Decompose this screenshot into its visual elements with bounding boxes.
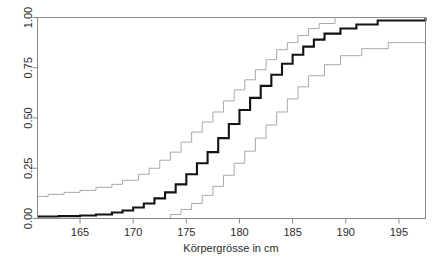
y-tick-label: 0.75 [22, 57, 34, 78]
y-tick-label: 0.25 [22, 158, 34, 179]
x-tick-label: 165 [71, 226, 89, 238]
confidence-band-line [38, 43, 426, 219]
x-tick-label: 190 [337, 226, 355, 238]
x-tick-label: 185 [283, 226, 301, 238]
confidence-band-layer [38, 18, 426, 219]
y-axis-ticks: 0.000.250.500.751.00 [22, 7, 38, 229]
x-tick-label: 175 [177, 226, 195, 238]
y-tick-label: 1.00 [22, 7, 34, 28]
y-tick-label: 0.50 [22, 107, 34, 128]
x-tick-label: 180 [230, 226, 248, 238]
x-tick-label: 170 [124, 226, 142, 238]
x-tick-label: 195 [390, 226, 408, 238]
confidence-band-line [38, 18, 426, 197]
y-tick-label: 0.00 [22, 208, 34, 229]
ecdf-estimate-layer [38, 18, 426, 217]
ecdf-estimate-line [38, 18, 426, 217]
x-axis-title: Körpergrösse in cm [183, 242, 278, 254]
ecdf-figure: 165170175180185190195 0.000.250.500.751.… [0, 0, 437, 272]
x-axis-ticks: 165170175180185190195 [71, 219, 408, 238]
ecdf-plot-svg: 165170175180185190195 0.000.250.500.751.… [0, 0, 437, 272]
